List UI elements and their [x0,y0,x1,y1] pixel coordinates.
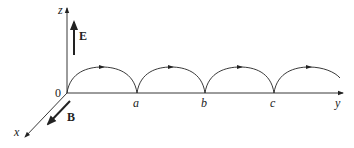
e-field-vector: E [74,22,87,55]
trajectory-arc-3 [205,67,274,93]
trajectory-arc-1 [67,67,137,93]
x-axis-label: x [13,125,20,139]
trajectory-arc-2 [137,67,205,93]
trajectory [67,67,340,93]
z-axis: z [57,3,67,93]
direction-arrow-icon [306,65,312,69]
point-c-label: c [270,96,276,110]
direction-arrow-icon [168,65,174,69]
b-field-vector: B [48,101,75,124]
direction-arrow-icon [237,65,243,69]
point-b-label: b [201,96,207,110]
b-field-label: B [67,110,75,124]
z-axis-label: z [57,3,63,17]
trajectory-arc-4 [274,67,340,93]
trajectory-direction-markers [99,65,312,69]
origin-label: 0 [55,86,61,100]
cycloid-diagram: z y x 0 E B a b c [0,0,354,148]
direction-arrow-icon [99,65,105,69]
e-field-label: E [79,29,87,43]
point-a-label: a [133,96,139,110]
y-axis-label: y [334,96,341,110]
